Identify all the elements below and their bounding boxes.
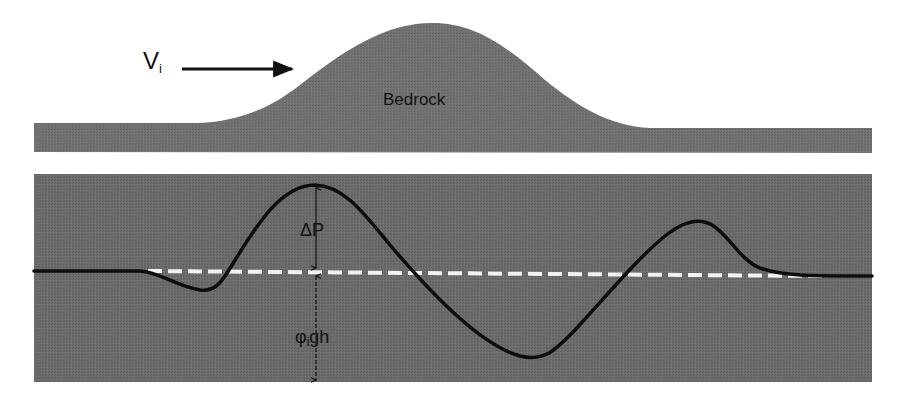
top-panel bbox=[34, 23, 872, 153]
pressure-panel-background bbox=[34, 174, 872, 382]
bottom-panel bbox=[34, 174, 872, 382]
phi-symbol: φ bbox=[295, 327, 307, 347]
velocity-subscript: i bbox=[159, 61, 162, 76]
bedrock-label: Bedrock bbox=[383, 90, 445, 110]
delta-p-label: ΔP bbox=[300, 220, 324, 241]
hydrostatic-pressure-label: φigh bbox=[295, 327, 329, 349]
bedrock-shape bbox=[34, 23, 872, 153]
velocity-label: Vi bbox=[143, 47, 162, 76]
bedrock-pressure-diagram bbox=[0, 0, 913, 402]
velocity-symbol: V bbox=[143, 47, 159, 74]
gh-text: gh bbox=[309, 327, 329, 347]
